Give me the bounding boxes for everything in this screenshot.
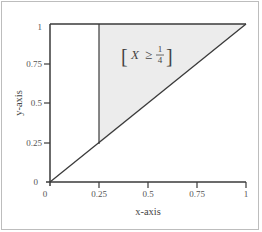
x-tick-label-0.5: 0.5 <box>142 189 154 199</box>
y-tick-label-0: 0 <box>34 177 39 187</box>
annotation-right-bracket: ] <box>166 45 173 67</box>
x-tick-label-1: 1 <box>244 189 249 199</box>
annotation-numerator: 1 <box>158 44 163 54</box>
annotation-denominator: 4 <box>158 55 163 65</box>
annotation-variable: X <box>130 47 140 62</box>
y-tick-label-0.25: 0.25 <box>26 138 42 148</box>
chart-plot: 0 0.25 0.5 0.75 1 0 0.25 0.5 0.75 1 x-ax… <box>0 0 262 232</box>
x-ticks <box>99 182 246 188</box>
x-tick-label-0.75: 0.75 <box>189 189 205 199</box>
x-tick-label-0.25: 0.25 <box>91 189 107 199</box>
y-tick-label-0.5: 0.5 <box>31 98 43 108</box>
x-tick-label-0: 0 <box>43 189 48 199</box>
y-tick-label-1: 1 <box>38 22 43 32</box>
x-axis-label: x-axis <box>135 206 161 217</box>
y-ticks <box>44 64 50 143</box>
annotation-left-bracket: [ <box>121 45 128 67</box>
y-axis-label: y-axis <box>13 90 24 116</box>
y-tick-label-0.75: 0.75 <box>26 59 42 69</box>
annotation-relation: ≥ <box>145 47 152 62</box>
